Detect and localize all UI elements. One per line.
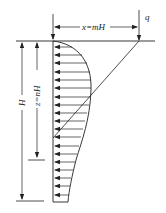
influence-line: [53, 41, 139, 138]
offset-label: x=mH: [81, 22, 106, 32]
pressure-diagram: q x=mH H z=nH: [0, 0, 166, 213]
load-label: q: [145, 12, 150, 22]
height-label: H: [17, 99, 27, 107]
depth-label: z=nH: [32, 85, 42, 107]
